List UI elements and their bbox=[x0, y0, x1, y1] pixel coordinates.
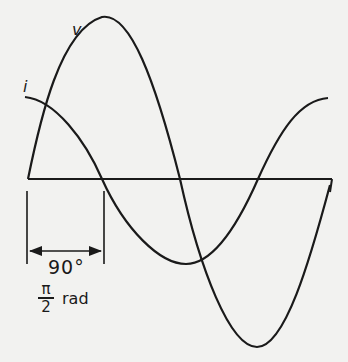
phase-degrees-label: 90° bbox=[48, 258, 85, 277]
arrowhead-left-icon bbox=[29, 246, 42, 256]
fraction-numerator: π bbox=[38, 282, 54, 296]
fraction-denominator: 2 bbox=[38, 300, 54, 315]
voltage-label: v bbox=[72, 22, 81, 38]
current-label: i bbox=[23, 79, 27, 95]
arrowhead-right-icon bbox=[89, 246, 102, 256]
phase-radians-fraction: π 2 bbox=[38, 282, 54, 315]
phase-radians-unit: rad bbox=[62, 291, 89, 307]
current-curve bbox=[25, 97, 328, 264]
